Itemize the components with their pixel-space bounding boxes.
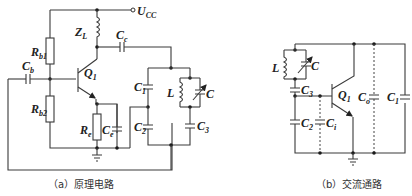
label-rb2: Rb2 xyxy=(30,102,47,118)
label-cb: Cb xyxy=(22,59,34,75)
resistor-re xyxy=(93,114,101,140)
label-rb1: Rb1 xyxy=(30,45,47,61)
inductor-l-b xyxy=(284,50,287,79)
inductor-zl xyxy=(97,10,100,47)
figure-a-schematic xyxy=(8,8,206,170)
label-c3: C3 xyxy=(197,119,209,135)
caption-a: （a）原理电路 xyxy=(48,178,114,190)
label-cc: Cc xyxy=(116,28,128,44)
label-q1-b: Q1 xyxy=(338,88,351,104)
capacitor-co xyxy=(369,95,379,99)
label-l-b: L xyxy=(271,61,279,75)
label-c-b: C xyxy=(311,59,320,73)
label-q1: Q1 xyxy=(84,66,97,82)
label-co: Co xyxy=(358,90,370,106)
resistor-rb1 xyxy=(46,38,54,64)
label-zl: ZL xyxy=(74,25,87,41)
circuit-diagram: UCC Rb1 Rb2 ZL Cc Cb Q1 Re Ce C1 C2 C3 L… xyxy=(0,0,412,196)
label-c2: C2 xyxy=(134,120,146,136)
label-ucc: UCC xyxy=(137,4,157,20)
capacitor-c3 xyxy=(185,124,195,128)
capacitor-c1-b xyxy=(400,95,410,99)
supply-terminal xyxy=(131,8,135,12)
capacitor-cb xyxy=(26,74,30,84)
label-l: L xyxy=(166,86,174,100)
label-c1: C1 xyxy=(134,80,146,96)
ground-icon xyxy=(92,148,102,161)
capacitor-ci xyxy=(315,120,325,124)
resistor-rb2 xyxy=(46,96,54,122)
inductor-l xyxy=(180,78,183,107)
ground-icon xyxy=(348,153,358,165)
caption-b: （b）交流通路 xyxy=(316,178,382,190)
label-c2-b: C2 xyxy=(301,116,313,132)
label-c: C xyxy=(206,87,215,101)
label-ci: Ci xyxy=(326,116,337,132)
label-c3-b: C3 xyxy=(301,83,313,99)
label-c1-b: C1 xyxy=(387,90,399,106)
label-ce: Ce xyxy=(102,123,114,139)
label-re: Re xyxy=(79,123,92,139)
